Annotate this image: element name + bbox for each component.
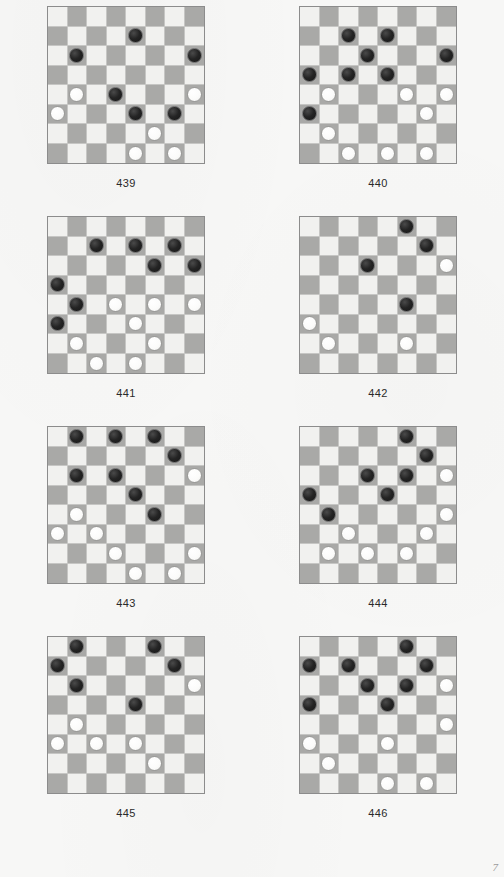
black-piece[interactable] [69,678,84,693]
board-square[interactable] [87,7,107,27]
board-square[interactable] [87,237,107,257]
board-square[interactable] [339,544,359,564]
board-square[interactable] [185,276,205,296]
board-square[interactable] [48,276,68,296]
board-square[interactable] [300,217,320,237]
black-piece[interactable] [380,67,395,82]
board-square[interactable] [398,334,418,354]
white-piece[interactable] [419,526,434,541]
board-square[interactable] [378,466,398,486]
board-square[interactable] [398,124,418,144]
board-square[interactable] [185,486,205,506]
black-piece[interactable] [341,658,356,673]
board-square[interactable] [378,85,398,105]
black-piece[interactable] [302,658,317,673]
white-piece[interactable] [89,356,104,371]
board-square[interactable] [87,295,107,315]
checkers-board[interactable] [47,6,205,164]
board-square[interactable] [300,27,320,47]
board-square[interactable] [68,66,88,86]
board-square[interactable] [300,46,320,66]
board-square[interactable] [359,27,379,47]
board-square[interactable] [339,735,359,755]
board-square[interactable] [417,657,437,677]
board-square[interactable] [437,105,457,125]
board-square[interactable] [417,637,437,657]
white-piece[interactable] [360,546,375,561]
board-square[interactable] [126,525,146,545]
board-square[interactable] [185,505,205,525]
black-piece[interactable] [108,429,123,444]
black-piece[interactable] [128,697,143,712]
board-square[interactable] [68,144,88,164]
board-square[interactable] [165,735,185,755]
board-square[interactable] [320,774,340,794]
board-square[interactable] [68,46,88,66]
board-square[interactable] [68,295,88,315]
white-piece[interactable] [50,526,65,541]
board-square[interactable] [48,735,68,755]
board-square[interactable] [320,27,340,47]
board-square[interactable] [359,525,379,545]
board-square[interactable] [87,315,107,335]
board-square[interactable] [320,66,340,86]
board-square[interactable] [165,315,185,335]
white-piece[interactable] [89,526,104,541]
board-square[interactable] [68,315,88,335]
board-square[interactable] [126,715,146,735]
black-piece[interactable] [167,658,182,673]
board-square[interactable] [437,66,457,86]
board-square[interactable] [126,46,146,66]
board-square[interactable] [378,315,398,335]
board-square[interactable] [437,754,457,774]
black-piece[interactable] [128,487,143,502]
board-square[interactable] [398,144,418,164]
board-square[interactable] [165,715,185,735]
board-square[interactable] [378,676,398,696]
board-square[interactable] [68,447,88,467]
board-square[interactable] [87,676,107,696]
board-square[interactable] [185,564,205,584]
board-square[interactable] [417,256,437,276]
board-square[interactable] [68,525,88,545]
white-piece[interactable] [147,756,162,771]
board-square[interactable] [359,676,379,696]
board-square[interactable] [417,217,437,237]
board-square[interactable] [185,354,205,374]
board-square[interactable] [300,505,320,525]
board-square[interactable] [320,354,340,374]
black-piece[interactable] [399,639,414,654]
board-square[interactable] [398,754,418,774]
white-piece[interactable] [108,297,123,312]
black-piece[interactable] [167,106,182,121]
board-square[interactable] [378,276,398,296]
board-square[interactable] [48,696,68,716]
board-square[interactable] [417,486,437,506]
board-square[interactable] [126,447,146,467]
board-square[interactable] [146,676,166,696]
white-piece[interactable] [439,468,454,483]
board-square[interactable] [359,7,379,27]
board-square[interactable] [146,295,166,315]
board-square[interactable] [126,256,146,276]
black-piece[interactable] [380,28,395,43]
board-square[interactable] [378,505,398,525]
white-piece[interactable] [419,146,434,161]
board-square[interactable] [437,295,457,315]
white-piece[interactable] [439,507,454,522]
board-square[interactable] [68,505,88,525]
black-piece[interactable] [380,697,395,712]
board-square[interactable] [320,637,340,657]
black-piece[interactable] [50,277,65,292]
board-square[interactable] [417,66,437,86]
board-square[interactable] [107,486,127,506]
board-square[interactable] [146,486,166,506]
board-square[interactable] [359,447,379,467]
board-square[interactable] [398,27,418,47]
board-square[interactable] [68,276,88,296]
board-square[interactable] [87,354,107,374]
board-square[interactable] [146,754,166,774]
board-square[interactable] [417,354,437,374]
board-square[interactable] [417,237,437,257]
board-square[interactable] [359,217,379,237]
